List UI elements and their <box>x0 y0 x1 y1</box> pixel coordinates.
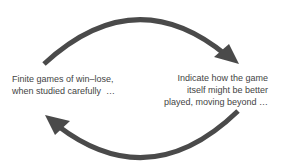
node-finite-games: Finite games of win–lose, when studied c… <box>12 73 115 97</box>
node-right-line-1: Indicate how the game <box>164 72 268 84</box>
node-right-line-3: played, moving beyond … <box>164 96 268 108</box>
node-indicate-game: Indicate how the game itself might be be… <box>164 72 268 108</box>
node-right-line-2: itself might be better <box>164 84 268 96</box>
cycle-diagram: Finite games of win–lose, when studied c… <box>0 0 282 168</box>
node-left-line-1: Finite games of win–lose, <box>12 73 115 85</box>
arrow-left-to-right-icon <box>44 20 239 64</box>
node-left-line-2: when studied carefully … <box>12 85 115 97</box>
arrow-right-to-left-icon <box>45 111 238 158</box>
